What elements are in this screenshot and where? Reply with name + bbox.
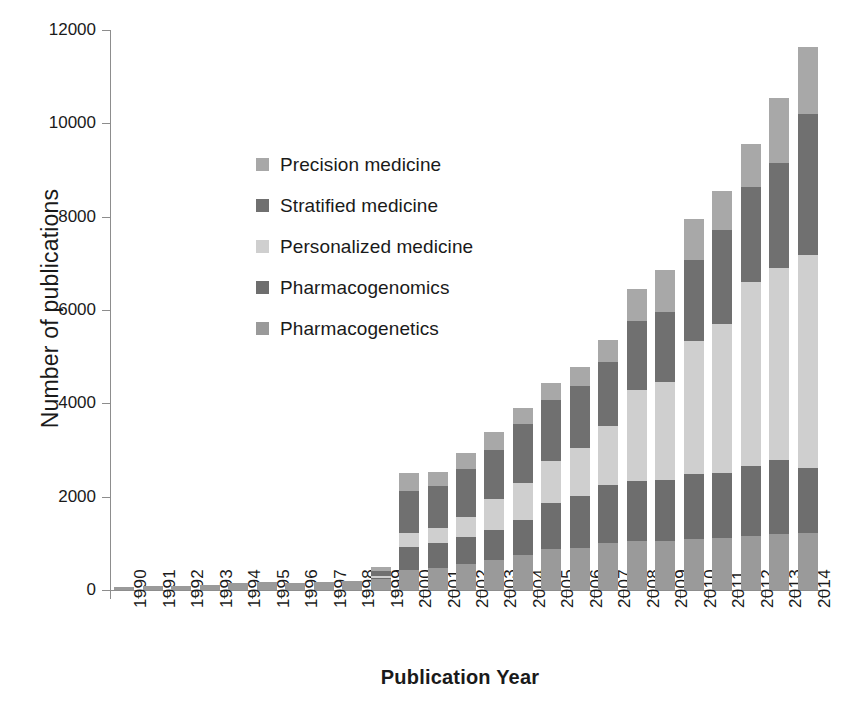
bar-segment-stratified-medicine xyxy=(627,321,647,390)
bar-segment-stratified-medicine xyxy=(798,114,818,255)
legend-label: Pharmacogenomics xyxy=(280,277,450,299)
bar-segment-stratified-medicine xyxy=(655,312,675,382)
bar-1997 xyxy=(314,582,334,590)
bar-segment-personalized-medicine xyxy=(399,533,419,547)
y-tick-label: 10000 xyxy=(49,113,96,133)
bar-segment-precision-medicine xyxy=(598,340,618,361)
y-tick: 2000 xyxy=(102,497,110,498)
bar-segment-pharmacogenetics xyxy=(200,585,220,590)
bar-segment-personalized-medicine xyxy=(627,390,647,481)
bar-segment-pharmacogenetics xyxy=(627,541,647,590)
bar-2012 xyxy=(741,144,761,590)
bar-segment-pharmacogenomics xyxy=(484,530,504,560)
bar-1991 xyxy=(143,586,163,590)
y-tick: 12000 xyxy=(102,30,110,31)
bar-segment-pharmacogenetics xyxy=(712,538,732,590)
bar-1996 xyxy=(285,583,305,590)
bar-segment-stratified-medicine xyxy=(428,486,448,529)
bar-segment-stratified-medicine xyxy=(570,386,590,448)
bar-segment-stratified-medicine xyxy=(741,187,761,282)
bar-segment-pharmacogenomics xyxy=(741,466,761,536)
bar-segment-pharmacogenetics xyxy=(769,534,789,590)
y-tick-label: 12000 xyxy=(49,20,96,40)
bar-1992 xyxy=(171,586,191,590)
bar-1993 xyxy=(200,585,220,590)
bar-segment-stratified-medicine xyxy=(513,424,533,483)
bar-segment-pharmacogenomics xyxy=(712,473,732,538)
bar-segment-precision-medicine xyxy=(456,453,476,469)
bar-segment-pharmacogenomics xyxy=(428,543,448,567)
bar-segment-precision-medicine xyxy=(798,47,818,114)
bar-segment-pharmacogenetics xyxy=(171,586,191,590)
bar-segment-pharmacogenetics xyxy=(228,583,248,590)
bar-segment-stratified-medicine xyxy=(598,362,618,426)
publications-stacked-bar-chart: Number of publications 02000400060008000… xyxy=(0,0,842,708)
bar-segment-pharmacogenetics xyxy=(114,587,134,590)
bar-segment-precision-medicine xyxy=(399,473,419,490)
bar-segment-personalized-medicine xyxy=(712,324,732,472)
bar-2006 xyxy=(570,367,590,590)
bar-segment-pharmacogenetics xyxy=(399,570,419,590)
bar-2001 xyxy=(428,472,448,591)
legend-swatch-icon xyxy=(256,240,269,253)
y-tick-label: 0 xyxy=(87,580,96,600)
bar-segment-personalized-medicine xyxy=(513,483,533,520)
bar-segment-pharmacogenetics xyxy=(570,548,590,590)
bar-2013 xyxy=(769,98,789,590)
bar-segment-pharmacogenetics xyxy=(484,560,504,590)
bar-segment-stratified-medicine xyxy=(399,491,419,533)
legend-swatch-icon xyxy=(256,322,269,335)
legend-item-pharmacogenetics[interactable]: Pharmacogenetics xyxy=(256,308,506,349)
y-tick: 6000 xyxy=(102,310,110,311)
bar-segment-stratified-medicine xyxy=(456,469,476,517)
bar-1998 xyxy=(342,581,362,590)
bar-segment-pharmacogenomics xyxy=(513,520,533,555)
bar-segment-pharmacogenomics xyxy=(798,468,818,533)
bar-segment-pharmacogenetics xyxy=(428,568,448,590)
y-tick-label: 4000 xyxy=(58,393,96,413)
bar-segment-stratified-medicine xyxy=(684,260,704,341)
bar-segment-pharmacogenomics xyxy=(541,503,561,550)
bar-1999 xyxy=(371,567,391,590)
bar-segment-personalized-medicine xyxy=(456,517,476,537)
y-tick: 10000 xyxy=(102,123,110,124)
legend-item-personalized-medicine[interactable]: Personalized medicine xyxy=(256,226,506,267)
bar-2007 xyxy=(598,340,618,590)
legend-item-pharmacogenomics[interactable]: Pharmacogenomics xyxy=(256,267,506,308)
legend-item-precision-medicine[interactable]: Precision medicine xyxy=(256,144,506,185)
bar-segment-pharmacogenetics xyxy=(371,579,391,590)
bar-segment-pharmacogenetics xyxy=(257,582,277,590)
bar-segment-precision-medicine xyxy=(513,408,533,424)
x-tick xyxy=(110,590,111,599)
bar-segment-personalized-medicine xyxy=(684,341,704,474)
bar-segment-pharmacogenetics xyxy=(598,543,618,590)
y-tick-label: 2000 xyxy=(58,487,96,507)
legend-swatch-icon xyxy=(256,158,269,171)
bar-2000 xyxy=(399,473,419,590)
bar-segment-pharmacogenomics xyxy=(655,480,675,540)
bar-2002 xyxy=(456,453,476,590)
chart-legend: Precision medicineStratified medicinePer… xyxy=(256,144,506,349)
bar-segment-precision-medicine xyxy=(627,289,647,322)
y-axis-line xyxy=(110,30,111,590)
bar-segment-pharmacogenetics xyxy=(314,582,334,590)
y-tick: 4000 xyxy=(102,403,110,404)
bar-segment-precision-medicine xyxy=(741,144,761,187)
bar-segment-precision-medicine xyxy=(769,98,789,163)
x-axis-title: Publication Year xyxy=(110,666,810,689)
bar-segment-stratified-medicine xyxy=(712,230,732,325)
legend-label: Personalized medicine xyxy=(280,236,473,258)
bar-2009 xyxy=(655,270,675,590)
bar-segment-pharmacogenomics xyxy=(399,547,419,570)
bar-segment-personalized-medicine xyxy=(484,499,504,530)
legend-item-stratified-medicine[interactable]: Stratified medicine xyxy=(256,185,506,226)
bar-1995 xyxy=(257,582,277,590)
bar-segment-precision-medicine xyxy=(541,383,561,399)
bar-2014 xyxy=(798,47,818,590)
bar-segment-personalized-medicine xyxy=(598,426,618,484)
bar-segment-pharmacogenomics xyxy=(570,496,590,548)
bar-segment-pharmacogenomics xyxy=(627,481,647,542)
bar-segment-stratified-medicine xyxy=(769,163,789,268)
bar-1994 xyxy=(228,583,248,590)
bar-2004 xyxy=(513,408,533,590)
